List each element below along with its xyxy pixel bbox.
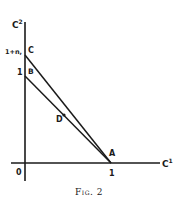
figure-2-diagram: C2 C1 0 1 1 1+n, C B D A Fig. 2: [0, 0, 183, 205]
x-axis-label: C1: [162, 157, 173, 169]
point-D-label: D: [56, 115, 63, 124]
y-tick-1-label: 1: [17, 68, 23, 77]
x-tick-1-label: 1: [109, 169, 115, 178]
y-axis-label: C2: [12, 18, 23, 30]
point-B-label: B: [28, 67, 34, 76]
point-C-label: C: [28, 46, 34, 55]
line-BA: [25, 76, 111, 163]
figure-caption: Fig. 2: [75, 187, 103, 197]
line-CA: [25, 55, 111, 163]
point-A-label: A: [109, 149, 116, 158]
y-tick-1-plus-n-label: 1+n,: [5, 48, 22, 56]
origin-label: 0: [16, 168, 22, 177]
point-D-marker: [62, 113, 65, 116]
